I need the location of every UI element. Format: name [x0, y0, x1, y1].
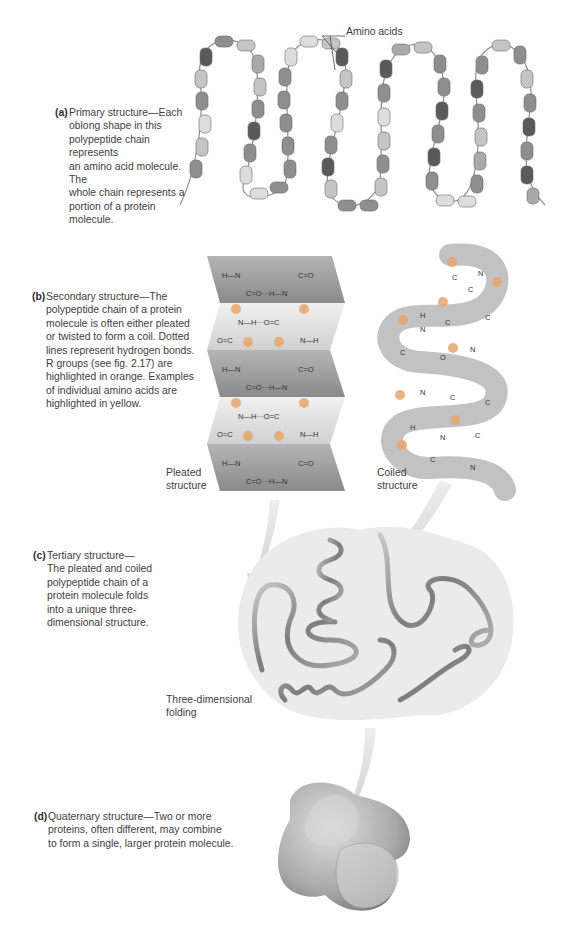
- panel-tag-b: (b): [32, 290, 45, 303]
- caption-primary-structure: (a) Primary structure—Each oblong shape …: [69, 106, 199, 227]
- panel-tag-c: (c): [33, 549, 46, 562]
- svg-text:C=O: C=O: [298, 365, 314, 374]
- tertiary-structure: [238, 527, 514, 720]
- svg-text:H: H: [420, 311, 425, 320]
- svg-text:H: H: [410, 423, 415, 432]
- svg-text:C: C: [445, 318, 451, 327]
- pleated-sheet: H—NC=O C=O···H—N N—H···O=C O=CN—H H—NC=O…: [207, 256, 345, 491]
- primary-structure-chain: [180, 36, 545, 211]
- svg-text:C: C: [485, 313, 491, 322]
- svg-text:C=O···H—N: C=O···H—N: [246, 289, 287, 298]
- amino-acid-beads: [190, 36, 539, 211]
- svg-text:H—N: H—N: [222, 271, 240, 280]
- label-coiled-structure: Coiled structure: [377, 466, 417, 493]
- svg-text:N: N: [420, 388, 425, 397]
- label-amino-acids: Amino acids: [346, 25, 403, 38]
- svg-text:C: C: [468, 285, 474, 294]
- svg-text:C: C: [430, 455, 436, 464]
- quaternary-structure: [278, 783, 410, 911]
- caption-quaternary-structure: (d) Quaternary structure—Two or more pro…: [48, 810, 258, 850]
- svg-text:N: N: [470, 463, 475, 472]
- svg-text:H—N: H—N: [222, 365, 240, 374]
- svg-text:C=O···H—N: C=O···H—N: [246, 477, 287, 486]
- svg-text:O: O: [440, 353, 446, 362]
- svg-text:C: C: [450, 393, 456, 402]
- svg-text:C: C: [475, 431, 481, 440]
- svg-text:N: N: [478, 269, 483, 278]
- coiled-helix: CNC HNCC CON NCC HNC CN: [388, 254, 505, 490]
- svg-text:C: C: [400, 348, 406, 357]
- panel-tag-a: (a): [55, 106, 68, 119]
- svg-text:N: N: [420, 325, 425, 334]
- label-pleated-structure: Pleated structure: [166, 466, 206, 493]
- svg-text:C=O: C=O: [298, 271, 314, 280]
- svg-text:C: C: [485, 398, 491, 407]
- svg-text:N—H···O=C: N—H···O=C: [238, 412, 280, 421]
- caption-tertiary-structure: (c) Tertiary structure— The pleated and …: [47, 549, 167, 629]
- svg-text:N: N: [470, 345, 475, 354]
- panel-tag-d: (d): [34, 810, 47, 823]
- svg-text:N: N: [440, 433, 445, 442]
- svg-text:C: C: [452, 273, 458, 282]
- svg-text:O=C: O=C: [217, 430, 233, 439]
- svg-text:C=O···H—N: C=O···H—N: [246, 383, 287, 392]
- svg-text:C=O: C=O: [298, 459, 314, 468]
- svg-text:N—H: N—H: [300, 336, 318, 345]
- caption-secondary-structure: (b) Secondary structure—The polypeptide …: [46, 290, 206, 411]
- svg-text:N—H: N—H: [300, 430, 318, 439]
- label-three-dimensional-folding: Three-dimensional folding: [166, 693, 252, 720]
- svg-text:N—H···O=C: N—H···O=C: [238, 318, 280, 327]
- svg-text:O=C: O=C: [217, 336, 233, 345]
- svg-text:H—N: H—N: [222, 459, 240, 468]
